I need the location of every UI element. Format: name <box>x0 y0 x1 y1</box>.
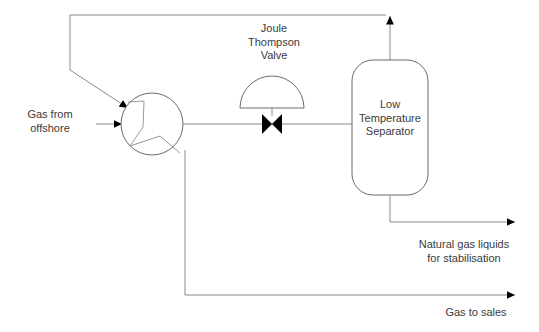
label-low-temperature-separator: Low Temperature Separator <box>352 98 428 139</box>
label-joule-thompson-valve: Joule Thompson Valve <box>228 22 320 63</box>
valve-body-left-triangle-icon <box>262 114 272 134</box>
label-natural-gas-liquids: Natural gas liquids for stabilisation <box>398 238 530 265</box>
valve-dome-actuator-icon <box>240 76 304 108</box>
heat-exchanger <box>121 93 183 155</box>
process-flow-diagram: Gas from offshore Joule Thompson Valve L… <box>0 0 539 332</box>
recycle-to-exchanger-diagonal <box>70 70 128 108</box>
stream-liquids <box>390 195 515 222</box>
valve-body-right-triangle-icon <box>272 114 282 134</box>
label-gas-from-offshore: Gas from offshore <box>8 108 92 135</box>
jt-valve-symbol <box>240 76 304 134</box>
label-gas-to-sales: Gas to sales <box>418 306 534 320</box>
natural-gas-liquids-line <box>390 195 515 222</box>
